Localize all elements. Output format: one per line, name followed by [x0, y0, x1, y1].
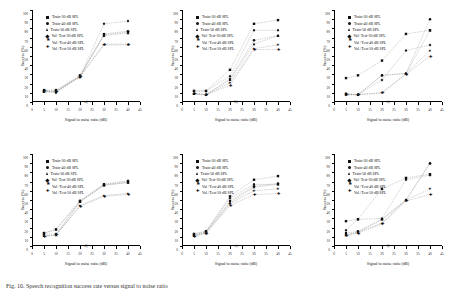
x-tick-label: 15: [368, 108, 371, 112]
x-tick-label: 20: [78, 108, 81, 112]
x-axis-label: Signal to noise ratio (dB): [65, 117, 107, 122]
y-tick-label: 40: [175, 67, 178, 71]
x-tick: [278, 246, 279, 249]
y-tick-label: 50: [25, 58, 28, 62]
y-tick-label: 40: [327, 211, 330, 215]
data-point: [405, 33, 407, 35]
legend-marker-plus-icon: [196, 191, 199, 194]
y-tick: [180, 102, 183, 103]
x-tick-label: 10: [356, 108, 359, 112]
y-axis-label: Success (%): [170, 190, 175, 211]
data-point: [345, 220, 347, 222]
x-tick: [116, 102, 117, 105]
y-tick-label: 100: [325, 12, 330, 16]
y-tick-label: 10: [25, 239, 28, 243]
plot-area-b: 0510152025303540450102030405060708090100…: [182, 10, 290, 102]
x-tick-label: 15: [216, 252, 219, 256]
y-tick-label: 50: [327, 202, 330, 206]
y-tick-label: 70: [327, 184, 330, 188]
x-tick: [32, 102, 33, 105]
x-tick-label: 30: [404, 252, 407, 256]
x-tick: [346, 102, 347, 105]
x-tick-label: 25: [392, 252, 395, 256]
x-tick-label: 30: [102, 252, 105, 256]
legend-marker-sq-icon: [196, 160, 199, 163]
legend-label: Val+Test-50 dB SPL: [354, 47, 386, 51]
data-point: [277, 19, 279, 21]
legend-marker-plus-icon: [46, 191, 49, 194]
x-tick-label: 20: [228, 252, 231, 256]
x-tick-label: 5: [345, 252, 347, 256]
legend-label: Val+Test-30 dB SPL: [51, 178, 83, 182]
legend-item[interactable]: Val+Test-50 dB SPL: [348, 46, 386, 52]
x-tick-label: 45: [138, 108, 141, 112]
x-tick: [242, 102, 243, 105]
legend-label: Val+Test-30 dB SPL: [353, 178, 385, 182]
legend-marker-tri-icon: [196, 172, 198, 175]
legend-marker-circ-icon: [46, 166, 49, 169]
x-tick: [68, 246, 69, 249]
legend-label: Train-50 dB SPL: [51, 172, 78, 176]
legend-label: Train-30 dB SPL: [202, 15, 229, 19]
data-point: [103, 22, 106, 25]
y-tick-label: 90: [327, 21, 330, 25]
legend-item[interactable]: Val+Test-50 dB SPL: [46, 46, 84, 52]
legend-item[interactable]: Val+Test-50 dB SPL: [46, 190, 84, 196]
figure-caption: Fig. 10. Speech recognition success rate…: [6, 283, 168, 289]
x-tick: [254, 246, 255, 249]
x-tick-label: 5: [43, 252, 45, 256]
y-tick-label: 0: [26, 104, 28, 108]
y-tick-label: 0: [176, 104, 178, 108]
legend-item[interactable]: Val+Test-50 dB SPL: [348, 190, 386, 196]
y-tick: [30, 246, 33, 247]
y-axis-label: Success (%): [322, 190, 327, 211]
chart-panel-c: 0510152025303540450102030405060708090100…: [304, 2, 454, 137]
chart-panel-f: 0510152025303540450102030405060708090100…: [304, 146, 454, 281]
x-tick: [128, 246, 129, 249]
x-axis-label: Signal to noise ratio (dB): [65, 261, 107, 266]
x-tick: [346, 246, 347, 249]
legend-marker-sq-icon: [46, 16, 49, 19]
data-point: [357, 74, 359, 76]
legend: Train-30 dB SPLTrain-40 dB SPLTrain-50 d…: [348, 158, 386, 196]
y-tick-label: 50: [25, 202, 28, 206]
x-tick-label: 25: [90, 108, 93, 112]
x-tick-label: 35: [264, 108, 267, 112]
x-tick-label: 15: [368, 252, 371, 256]
legend-marker-tri-icon: [348, 172, 350, 175]
x-tick-label: 10: [204, 108, 207, 112]
x-tick: [104, 102, 105, 105]
x-tick-label: 10: [204, 252, 207, 256]
legend-item[interactable]: Val+Test-50 dB SPL: [196, 46, 234, 52]
legend-label: Train-40 dB SPL: [354, 166, 381, 170]
x-tick-label: 15: [66, 108, 69, 112]
x-tick-label: 30: [102, 108, 105, 112]
x-tick-label: 30: [252, 252, 255, 256]
x-tick-label: 45: [288, 108, 291, 112]
legend-marker-sq-icon: [196, 16, 199, 19]
y-tick-label: 50: [175, 58, 178, 62]
data-point: [229, 69, 231, 71]
legend-label: Val+Test-40 dB SPL: [202, 185, 234, 189]
y-tick-label: 60: [175, 49, 178, 53]
y-tick-label: 40: [175, 211, 178, 215]
x-tick: [430, 246, 431, 249]
legend-label: Val+Test-50 dB SPL: [202, 191, 234, 195]
legend-label: Val+Test-30 dB SPL: [201, 34, 233, 38]
data-point: ★: [428, 186, 432, 191]
x-tick-label: 45: [440, 252, 443, 256]
x-tick: [370, 102, 371, 105]
legend-label: Val+Test-50 dB SPL: [52, 47, 84, 51]
y-tick-label: 80: [327, 30, 330, 34]
y-axis-label: Success (%): [170, 46, 175, 67]
y-axis-label: Success (%): [20, 190, 25, 211]
y-tick-label: 20: [175, 230, 178, 234]
legend-item[interactable]: Val+Test-50 dB SPL: [196, 190, 234, 196]
y-tick-label: 40: [25, 67, 28, 71]
data-point: ★: [428, 48, 432, 53]
legend-marker-plus-icon: [196, 47, 199, 50]
legend-label: Val+Test-50 dB SPL: [354, 191, 386, 195]
x-tick-label: 25: [392, 108, 395, 112]
x-tick: [266, 246, 267, 249]
